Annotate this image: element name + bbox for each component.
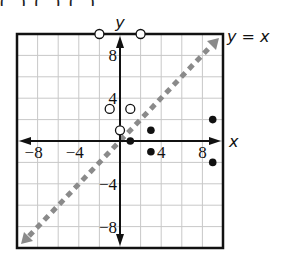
- reference-line-label: y = x: [226, 27, 270, 46]
- closed-point: [147, 148, 155, 156]
- closed-point: [147, 127, 155, 135]
- open-point: [116, 126, 125, 135]
- open-point: [136, 30, 145, 39]
- coordinate-plane: y = x −8−44884−4−8 xy: [0, 0, 286, 264]
- x-axis-label: x: [228, 132, 239, 151]
- y-tick-label: −4: [99, 175, 118, 194]
- closed-point: [127, 137, 135, 145]
- arrow-up-icon: [116, 36, 124, 48]
- closed-point: [209, 116, 217, 124]
- y-tick-label: −8: [99, 218, 117, 237]
- arrow-down-icon: [116, 234, 124, 246]
- x-tick-label: 4: [157, 143, 166, 162]
- open-point: [126, 104, 135, 113]
- y-axis-label: y: [114, 13, 125, 32]
- arrowhead-icon: [207, 38, 219, 50]
- arrow-right-icon: [209, 137, 221, 145]
- open-point: [105, 104, 114, 113]
- open-point: [95, 30, 104, 39]
- x-tick-label: −4: [66, 143, 85, 162]
- x-tick-label: 8: [198, 143, 207, 162]
- closed-point: [209, 159, 217, 167]
- x-tick-label: −8: [25, 143, 43, 162]
- y-tick-label: 8: [109, 46, 118, 65]
